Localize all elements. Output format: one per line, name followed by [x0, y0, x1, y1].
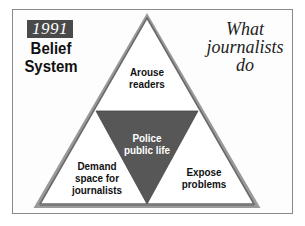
expose-line-1: Expose — [177, 166, 231, 178]
police-line-2: public life — [116, 144, 179, 156]
demand-line-3: journalists — [66, 184, 129, 196]
label-expose-problems: Expose problems — [177, 166, 231, 190]
label-demand-space: Demand space for journalists — [66, 160, 129, 196]
demand-line-1: Demand — [66, 160, 129, 172]
police-line-1: Police — [116, 132, 179, 144]
expose-line-2: problems — [177, 178, 231, 190]
demand-line-2: space for — [66, 172, 129, 184]
arouse-line-2: readers — [120, 78, 174, 90]
arouse-line-1: Arouse — [120, 66, 174, 78]
label-police-public-life: Police public life — [116, 132, 179, 156]
label-arouse-readers: Arouse readers — [120, 66, 174, 90]
triangle-diagram — [0, 0, 305, 226]
